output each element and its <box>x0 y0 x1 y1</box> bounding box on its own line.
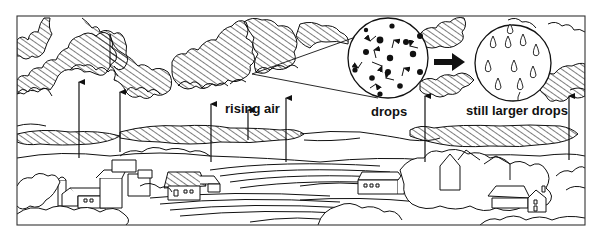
transition-arrow-icon <box>434 53 465 71</box>
village-left <box>17 147 220 225</box>
small-drops-inset <box>348 18 428 98</box>
village-right <box>318 149 585 225</box>
rain-formation-diagram: rising air drops still larger drops <box>0 0 602 237</box>
landscape <box>17 147 585 225</box>
label-still-larger-drops: still larger drops <box>466 104 568 117</box>
larger-drops-inset <box>475 24 551 101</box>
illustration-canvas <box>0 0 602 237</box>
label-drops: drops <box>371 105 407 118</box>
stratus-bands <box>17 124 578 147</box>
label-rising-air: rising air <box>225 102 280 115</box>
